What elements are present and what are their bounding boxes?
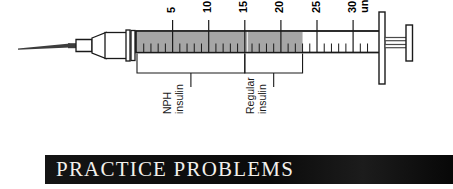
bracket-1 — [245, 54, 303, 74]
barrel-collar — [126, 30, 135, 61]
scale-number-30: 30 — [347, 1, 358, 13]
practice-problems-banner: PRACTICE PROBLEMS — [0, 150, 453, 189]
scale-number-10: 10 — [202, 1, 213, 13]
needle-icon — [18, 43, 76, 50]
bracket-label-regular-line2: insulin — [256, 77, 268, 114]
bracket-label-regular-line1: Regular — [244, 77, 256, 114]
bracket-0 — [137, 54, 245, 74]
banner-title: PRACTICE PROBLEMS — [56, 157, 294, 182]
barrel-flange — [379, 12, 385, 84]
plunger — [385, 25, 413, 61]
dose-brackets — [137, 54, 303, 74]
luer-cone — [92, 33, 127, 59]
scale-number-15: 15 — [238, 1, 249, 13]
scale-units-label: units — [359, 0, 370, 13]
scale-number-25: 25 — [311, 1, 322, 13]
bracket-label-regular: Regular insulin — [244, 77, 268, 114]
bracket-label-nph: NPH insulin — [161, 84, 185, 114]
scale-number-5: 5 — [166, 7, 177, 13]
bracket-label-nph-line2: insulin — [173, 84, 185, 114]
medication-fill — [137, 32, 303, 52]
syringe-drawing — [0, 0, 453, 150]
needle-hub — [76, 40, 92, 52]
scale-number-20: 20 — [274, 1, 285, 13]
syringe-figure: 51015202530units NPH insulin Regular ins… — [0, 0, 453, 150]
bracket-label-nph-line1: NPH — [161, 84, 173, 114]
